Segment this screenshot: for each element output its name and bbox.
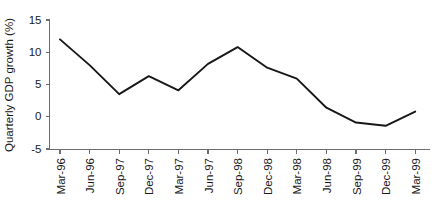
y-tick-label: 0 [35, 110, 41, 122]
x-tick-labels: Mar-96Jun-96Sep-97Dec-97Mar-97Jun-97Sep-… [55, 158, 422, 195]
x-tick-label: Dec-98 [262, 158, 274, 195]
y-tick-label: 15 [29, 14, 42, 26]
x-tick-label: Mar-97 [173, 158, 185, 194]
y-tick-label: -5 [31, 143, 41, 155]
gdp-growth-line-chart: 151050-5 Mar-96Jun-96Sep-97Dec-97Mar-97J… [0, 0, 436, 203]
y-axis-title-group: Quarterly GDP growth (%) [3, 18, 15, 152]
x-axis-group: Mar-96Jun-96Sep-97Dec-97Mar-97Jun-97Sep-… [50, 150, 431, 196]
y-axis-group: 151050-5 [29, 14, 50, 155]
y-tick-label: 10 [29, 46, 42, 58]
x-tick-label: Sep-99 [351, 158, 363, 195]
x-tick-label: Sep-98 [232, 158, 244, 195]
x-tick-label: Mar-98 [291, 158, 303, 194]
chart-canvas: 151050-5 Mar-96Jun-96Sep-97Dec-97Mar-97J… [0, 0, 436, 203]
x-tick-label: Sep-97 [114, 158, 126, 195]
x-tick-label: Jun-98 [321, 158, 333, 193]
x-tick-label: Jun-97 [203, 158, 215, 193]
x-tick-label: Jun-96 [84, 158, 96, 193]
x-tick-label: Mar-99 [410, 158, 422, 194]
y-axis-title: Quarterly GDP growth (%) [3, 18, 15, 152]
x-tick-label: Dec-99 [380, 158, 392, 195]
x-tick-label: Dec-97 [143, 158, 155, 195]
x-tick-label: Mar-96 [55, 158, 67, 194]
y-tick-labels: 151050-5 [29, 14, 42, 155]
y-tick-label: 5 [35, 78, 41, 90]
gdp-growth-series-line [60, 39, 415, 125]
